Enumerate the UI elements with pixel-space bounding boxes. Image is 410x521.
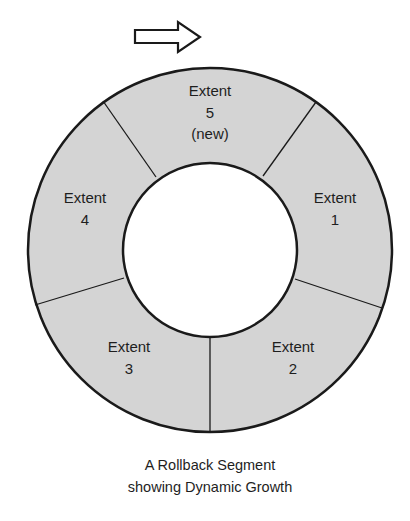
- extent-label-line: 2: [289, 360, 297, 377]
- extent-label-line: Extent: [64, 189, 107, 206]
- caption-line: A Rollback Segment: [145, 457, 276, 473]
- right-arrow-icon: [135, 22, 200, 52]
- extent-label-line: (new): [191, 125, 229, 142]
- extent-label-line: 4: [81, 211, 89, 228]
- diagram-caption: A Rollback Segment showing Dynamic Growt…: [128, 457, 292, 495]
- ring-hole: [123, 163, 297, 337]
- extent-label-line: Extent: [189, 82, 232, 99]
- extent-label-line: 5: [206, 104, 214, 121]
- caption-line: showing Dynamic Growth: [128, 479, 292, 495]
- extent-label-line: Extent: [272, 338, 315, 355]
- rollback-segment-diagram: Extent 5 (new) Extent 1 Extent 2 Extent …: [0, 0, 410, 521]
- extent-label-line: 1: [331, 211, 339, 228]
- extent-label-line: Extent: [314, 189, 357, 206]
- extent-label-line: Extent: [108, 338, 151, 355]
- extent-label-line: 3: [125, 360, 133, 377]
